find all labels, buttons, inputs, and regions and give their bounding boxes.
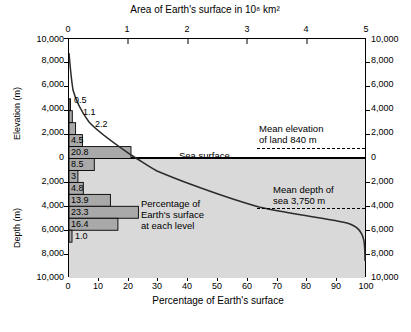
mean-depth-label-line2: sea 3,750 m: [273, 195, 325, 206]
bar-label-11: 1.0: [75, 232, 88, 241]
bar-label-6: 3: [71, 172, 76, 181]
left-tick-e10000: 10,000: [36, 34, 64, 44]
top-tick-1: 1: [124, 24, 129, 34]
bar-label-7: 4.8: [71, 184, 84, 193]
bottom-tick-100: 100: [358, 281, 373, 291]
right-tick-d4000: 4,000: [371, 200, 394, 210]
right-tick-e4000: 4,000: [371, 103, 394, 113]
right-tick-e8000: 8,000: [371, 55, 394, 65]
bottom-tick-50: 50: [212, 281, 222, 291]
bar-legend-line3: at each level: [141, 220, 194, 231]
bottom-tick-0: 0: [65, 281, 70, 291]
bottom-tick-20: 20: [123, 281, 133, 291]
mean-depth-dashed-line: [257, 208, 365, 209]
left-tick-e4000: 4,000: [41, 103, 64, 113]
bar-legend-line2: Earth's surface: [141, 209, 204, 220]
right-tick-d2000: 2,000: [371, 176, 394, 186]
plot-area: Sea surface Mean elevation of land 840 m…: [68, 38, 366, 277]
left-axis-label-depth: Depth (m): [12, 208, 22, 248]
top-tick-3: 3: [244, 24, 249, 34]
left-axis-label-elevation: Elevation (m): [12, 87, 22, 140]
right-tick-d10000: 10,000: [371, 272, 399, 282]
bar-label-1: 1.1: [83, 108, 96, 117]
bottom-tick-10: 10: [93, 281, 103, 291]
bottom-tick-80: 80: [301, 281, 311, 291]
bar-label-0: 0.5: [74, 96, 87, 105]
bar-label-8: 13.9: [71, 196, 89, 205]
mean-elevation-label-line2: of land 840 m: [259, 134, 317, 145]
bottom-axis-title: Percentage of Earth's surface: [152, 296, 283, 306]
mean-depth-label-line1: Mean depth of: [273, 184, 334, 195]
bar-label-3: 4.5: [71, 136, 84, 145]
left-tick-e2000: 2,000: [41, 127, 64, 137]
right-tick-e10000: 10,000: [371, 34, 399, 44]
left-tick-e8000: 8,000: [41, 55, 64, 65]
mean-elevation-label-line1: Mean elevation: [259, 123, 323, 134]
bar-label-9: 23.3: [71, 208, 89, 217]
left-tick-d2000: 2,000: [41, 176, 64, 186]
mean-elevation-dashed-line: [257, 148, 365, 149]
top-tick-2: 2: [184, 24, 189, 34]
top-tick-4: 4: [303, 24, 308, 34]
right-tick-d8000: 8,000: [371, 248, 394, 258]
bar-legend-line1: Percentage of: [141, 198, 200, 209]
bar-label-5: 8.5: [71, 160, 84, 169]
right-tick-e6000: 6,000: [371, 79, 394, 89]
left-tick-d10000: 10,000: [36, 272, 64, 282]
bar-label-10: 16.4: [71, 220, 89, 229]
right-tick-e2000: 2,000: [371, 127, 394, 137]
right-tick-zero: 0: [371, 152, 376, 162]
top-tick-0: 0: [65, 24, 70, 34]
bar-label-2: 2.2: [95, 120, 108, 129]
left-tick-d8000: 8,000: [41, 248, 64, 258]
bottom-tick-90: 90: [331, 281, 341, 291]
bottom-tick-40: 40: [182, 281, 192, 291]
sea-surface-label: Sea surface: [179, 150, 230, 161]
left-tick-e6000: 6,000: [41, 79, 64, 89]
left-tick-d4000: 4,000: [41, 200, 64, 210]
bar-label-4: 20.8: [71, 148, 89, 157]
bottom-tick-60: 60: [242, 281, 252, 291]
bottom-tick-30: 30: [152, 281, 162, 291]
top-axis-title: Area of Earth's surface in 10⁸ km²: [130, 5, 280, 15]
right-tick-d6000: 6,000: [371, 224, 394, 234]
chart-figure: Area of Earth's surface in 10⁸ km² 0 1 2…: [0, 0, 411, 332]
top-tick-5: 5: [363, 24, 368, 34]
left-tick-d6000: 6,000: [41, 224, 64, 234]
left-tick-zero: 0: [59, 152, 64, 162]
bottom-tick-70: 70: [272, 281, 282, 291]
